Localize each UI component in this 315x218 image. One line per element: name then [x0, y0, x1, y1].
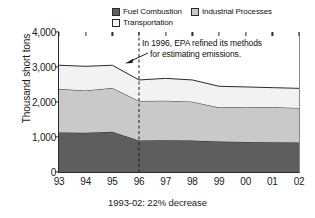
chart-figure: Fuel Combustion Industrial Processes Tra… — [0, 0, 315, 218]
x-axis-tick-label: 97 — [160, 176, 171, 187]
x-axis-tick-label: 01 — [267, 176, 278, 187]
y-axis-tick-mark — [55, 171, 59, 172]
legend-swatch-industrial-processes-icon — [191, 8, 199, 16]
x-axis-tick-mark — [192, 32, 193, 36]
x-axis-tick-mark — [165, 32, 166, 36]
annotation-arrow-icon — [123, 52, 149, 66]
y-axis-tick-label: 1,000 — [32, 132, 56, 143]
legend-item-fuel-combustion: Fuel Combustion — [112, 6, 182, 17]
y-axis-tick-label: 4,000 — [32, 27, 56, 38]
legend-label-transportation: Transportation — [123, 17, 173, 28]
annotation-line-1: In 1996, EPA refined its methods — [142, 38, 310, 49]
chart-caption: 1993-02: 22% decrease — [0, 197, 315, 208]
y-axis-title: Thousand short tons — [21, 9, 32, 149]
x-axis-tick-mark — [112, 32, 113, 36]
x-axis-tick-label: 02 — [294, 176, 305, 187]
y-axis-tick-mark — [55, 66, 59, 67]
x-axis-tick-mark — [58, 32, 59, 36]
x-axis-tick-mark — [138, 32, 139, 36]
y-axis-tick-label: 3,000 — [32, 62, 56, 73]
annotation-text: In 1996, EPA refined its methods for est… — [142, 38, 310, 60]
legend-row-2: Transportation — [112, 17, 312, 28]
x-axis-tick-label: 94 — [80, 176, 91, 187]
y-axis-tick-label: 2,000 — [32, 97, 56, 108]
x-axis-tick-mark — [85, 32, 86, 36]
chart-legend: Fuel Combustion Industrial Processes Tra… — [112, 6, 312, 28]
legend-item-transportation: Transportation — [112, 17, 173, 28]
y-axis-tick-mark — [55, 101, 59, 102]
legend-item-industrial-processes: Industrial Processes — [191, 6, 272, 17]
legend-label-fuel-combustion: Fuel Combustion — [123, 6, 182, 17]
x-axis-tick-mark — [298, 32, 299, 36]
x-axis-tick-label: 95 — [107, 176, 118, 187]
legend-swatch-fuel-combustion-icon — [112, 8, 120, 16]
x-axis-tick-label: 93 — [54, 176, 65, 187]
x-axis-tick-label: 96 — [134, 176, 145, 187]
y-axis-tick-mark — [55, 136, 59, 137]
x-axis-tick-mark — [245, 32, 246, 36]
annotation-line-2: for estimating emissions. — [142, 49, 310, 60]
legend-swatch-transportation-icon — [112, 19, 120, 27]
legend-row-1: Fuel Combustion Industrial Processes — [112, 6, 312, 17]
x-axis-tick-mark — [218, 32, 219, 36]
x-axis-tick-label: 99 — [214, 176, 225, 187]
legend-label-industrial-processes: Industrial Processes — [202, 6, 272, 17]
x-axis-tick-mark — [272, 32, 273, 36]
x-axis-tick-label: 98 — [187, 176, 198, 187]
x-axis-tick-label: 00 — [240, 176, 251, 187]
